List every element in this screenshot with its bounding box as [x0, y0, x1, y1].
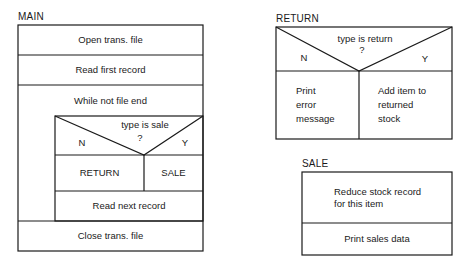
main-title: MAIN	[18, 11, 44, 22]
return-yes-branch: Add item to returned stock	[378, 84, 426, 126]
step-read-first: Read first record	[18, 64, 203, 76]
decision-mark: ?	[130, 132, 150, 144]
sale-step-reduce: Reduce stock record for this item	[334, 186, 421, 210]
return-no-line-2: error	[296, 98, 335, 112]
main-frame	[18, 25, 203, 251]
return-title: RETURN	[276, 13, 319, 24]
return-yes: Y	[418, 53, 432, 65]
return-no-branch: Print error message	[296, 84, 335, 126]
return-yes-line-3: stock	[378, 112, 426, 126]
sale-title: SALE	[302, 158, 328, 169]
step-close-file: Close trans. file	[18, 230, 203, 242]
return-yes-line-1: Add item to	[378, 84, 426, 98]
return-no-line-3: message	[296, 112, 335, 126]
return-no: N	[297, 52, 311, 64]
return-no-line-1: Print	[296, 84, 335, 98]
decision-yes: Y	[178, 137, 192, 149]
decision-question: type is sale	[105, 119, 185, 131]
branch-return: RETURN	[55, 167, 144, 179]
decision-no: N	[75, 137, 89, 149]
branch-sale: SALE	[144, 167, 203, 179]
sale-step-print: Print sales data	[302, 233, 452, 245]
sale-step-reduce-line-1: Reduce stock record	[334, 186, 421, 198]
step-loop: While not file end	[18, 95, 203, 107]
step-open-file: Open trans. file	[18, 34, 203, 46]
return-yes-line-2: returned	[378, 98, 426, 112]
step-read-next: Read next record	[55, 200, 203, 212]
sale-step-reduce-line-2: for this item	[334, 198, 421, 210]
return-mark: ?	[355, 44, 369, 56]
